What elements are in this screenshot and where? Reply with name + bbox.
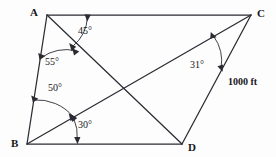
angle-label-45: 45° [78,26,92,36]
diagonal-BC [27,15,251,144]
angle-label-31: 31° [190,60,204,70]
side-AB [27,15,47,144]
vertex-label-A: A [30,7,38,18]
vertex-label-B: B [11,138,18,149]
geometry-diagram: A C B D 45° 55° 50° 30° 31° 1000 ft [0,0,276,157]
vertex-label-D: D [188,142,196,153]
angle-arc-50 [31,96,76,122]
diagonal-AD [47,15,182,144]
angle-label-30: 30° [78,120,92,130]
vertex-label-C: C [257,8,265,19]
angle-label-50: 50° [48,83,62,93]
side-length-label-CD: 1000 ft [228,77,257,87]
angle-arc-31 [210,32,223,72]
angle-label-55: 55° [45,57,59,67]
